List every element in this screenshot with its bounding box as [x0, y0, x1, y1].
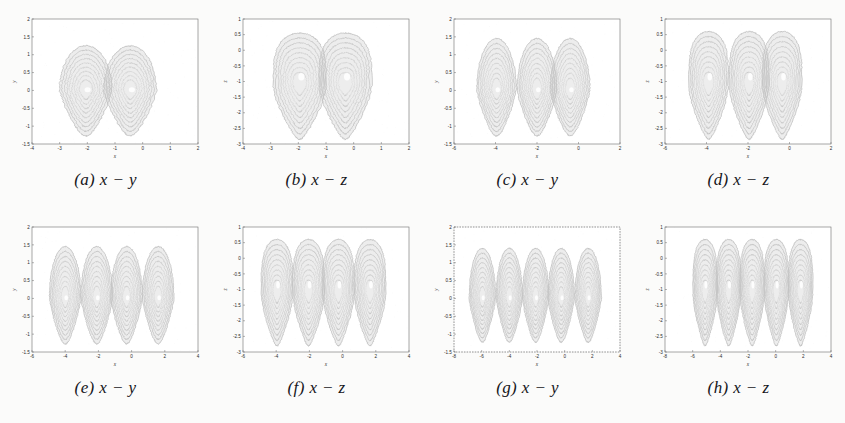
panel-a: -4-3-2-1012-1.5-1-0.500.511.52xy (a) x −… [0, 0, 211, 206]
svg-text:-0.5: -0.5 [232, 272, 240, 277]
svg-text:0.5: 0.5 [234, 240, 241, 245]
svg-text:-2: -2 [658, 318, 663, 323]
svg-text:y: y [11, 80, 17, 84]
svg-text:0.5: 0.5 [656, 240, 663, 245]
plot-area-h: -8-6-4-2024-3-2.5-2-1.5-1-0.500.51xz [639, 220, 839, 372]
svg-text:y: y [11, 288, 17, 292]
panel-f: -6-4-2024-3-2.5-2-1.5-1-0.500.51xz (f) x… [211, 206, 422, 423]
svg-text:-2: -2 [307, 354, 312, 359]
svg-text:-1: -1 [25, 332, 30, 337]
svg-text:1: 1 [380, 146, 383, 151]
svg-text:1: 1 [27, 260, 30, 265]
svg-text:-1.5: -1.5 [232, 303, 240, 308]
svg-text:1: 1 [449, 260, 452, 265]
svg-text:2: 2 [27, 225, 30, 230]
svg-text:-2: -2 [296, 146, 301, 151]
attractor-plot-g: -8-6-4-2024-1.5-1-0.500.511.52xy [428, 220, 628, 372]
svg-text:0.5: 0.5 [23, 278, 30, 283]
svg-text:2: 2 [802, 354, 805, 359]
svg-text:-1.5: -1.5 [654, 95, 662, 100]
svg-text:4: 4 [407, 354, 410, 359]
attractor-plot-f: -6-4-2024-3-2.5-2-1.5-1-0.500.51xz [217, 220, 417, 372]
svg-text:0.5: 0.5 [445, 70, 452, 75]
svg-text:x: x [323, 361, 327, 367]
svg-text:-2.5: -2.5 [654, 126, 662, 131]
attractor-plot-c: -6-4-202-1.5-1-0.500.511.52xy [428, 12, 628, 164]
svg-text:-3: -3 [268, 146, 273, 151]
svg-text:2: 2 [829, 146, 832, 151]
svg-text:-0.5: -0.5 [21, 106, 29, 111]
figure-grid: -4-3-2-1012-1.5-1-0.500.511.52xy (a) x −… [0, 0, 845, 423]
panel-c: -6-4-202-1.5-1-0.500.511.52xy (c) x − y [422, 0, 633, 206]
svg-text:-4: -4 [240, 146, 245, 151]
panel-b: -4-3-2-1012-3-2.5-2-1.5-1-0.500.51xz (b)… [211, 0, 422, 206]
svg-text:-2.5: -2.5 [232, 126, 240, 131]
svg-text:0: 0 [788, 146, 791, 151]
svg-text:-0.5: -0.5 [654, 64, 662, 69]
svg-text:-6: -6 [240, 354, 245, 359]
svg-text:0: 0 [352, 146, 355, 151]
svg-text:-1.5: -1.5 [232, 95, 240, 100]
svg-text:-2.5: -2.5 [232, 334, 240, 339]
caption-g: (g) x − y [496, 378, 559, 398]
svg-text:0.5: 0.5 [234, 32, 241, 37]
svg-text:x: x [534, 361, 538, 367]
svg-text:-4: -4 [493, 146, 498, 151]
svg-text:2: 2 [196, 146, 199, 151]
caption-a: (a) x − y [74, 170, 137, 190]
svg-text:-2: -2 [96, 354, 101, 359]
plot-area-a: -4-3-2-1012-1.5-1-0.500.511.52xy [6, 12, 206, 164]
svg-text:-2: -2 [534, 146, 539, 151]
caption-h: (h) x − z [708, 378, 770, 398]
svg-text:0: 0 [238, 256, 241, 261]
svg-text:-1: -1 [658, 287, 663, 292]
attractor-plot-e: -6-4-2024-1.5-1-0.500.511.52xy [6, 220, 206, 372]
svg-text:-8: -8 [662, 354, 667, 359]
svg-text:0: 0 [341, 354, 344, 359]
caption-c: (c) x − y [497, 170, 559, 190]
svg-text:1: 1 [660, 225, 663, 230]
caption-e: (e) x − y [75, 378, 137, 398]
svg-text:1: 1 [27, 52, 30, 57]
svg-text:2: 2 [407, 146, 410, 151]
svg-text:-6: -6 [451, 146, 456, 151]
svg-text:-2: -2 [658, 110, 663, 115]
svg-text:y: y [433, 288, 439, 292]
caption-b: (b) x − z [286, 170, 348, 190]
svg-text:-0.5: -0.5 [443, 106, 451, 111]
svg-text:-1.5: -1.5 [654, 303, 662, 308]
svg-text:-6: -6 [690, 354, 695, 359]
panel-h: -8-6-4-2024-3-2.5-2-1.5-1-0.500.51xz (h)… [633, 206, 844, 423]
svg-text:-6: -6 [479, 354, 484, 359]
svg-text:0: 0 [449, 88, 452, 93]
svg-text:2: 2 [449, 225, 452, 230]
svg-text:-1.5: -1.5 [443, 350, 451, 355]
svg-text:-1: -1 [25, 124, 30, 129]
svg-text:-2: -2 [745, 354, 750, 359]
svg-text:-4: -4 [29, 146, 34, 151]
panel-e: -6-4-2024-1.5-1-0.500.511.52xy (e) x − y [0, 206, 211, 423]
svg-text:z: z [222, 80, 228, 83]
svg-text:x: x [534, 153, 538, 159]
svg-text:2: 2 [591, 354, 594, 359]
svg-text:1: 1 [169, 146, 172, 151]
svg-text:0: 0 [449, 296, 452, 301]
svg-text:-2: -2 [236, 110, 241, 115]
svg-text:y: y [433, 80, 439, 84]
svg-text:-4: -4 [274, 354, 279, 359]
svg-text:z: z [644, 288, 650, 291]
svg-text:-3: -3 [236, 142, 241, 147]
svg-text:x: x [112, 153, 116, 159]
svg-text:-1: -1 [658, 79, 663, 84]
attractor-plot-d: -6-4-202-3-2.5-2-1.5-1-0.500.51xz [639, 12, 839, 164]
attractor-plot-h: -8-6-4-2024-3-2.5-2-1.5-1-0.500.51xz [639, 220, 839, 372]
svg-text:x: x [112, 361, 116, 367]
plot-area-d: -6-4-202-3-2.5-2-1.5-1-0.500.51xz [639, 12, 839, 164]
svg-text:-0.5: -0.5 [232, 64, 240, 69]
svg-text:x: x [745, 153, 749, 159]
svg-text:-2: -2 [745, 146, 750, 151]
svg-text:x: x [745, 361, 749, 367]
svg-text:-1.5: -1.5 [21, 142, 29, 147]
plot-area-e: -6-4-2024-1.5-1-0.500.511.52xy [6, 220, 206, 372]
svg-text:-2: -2 [85, 146, 90, 151]
